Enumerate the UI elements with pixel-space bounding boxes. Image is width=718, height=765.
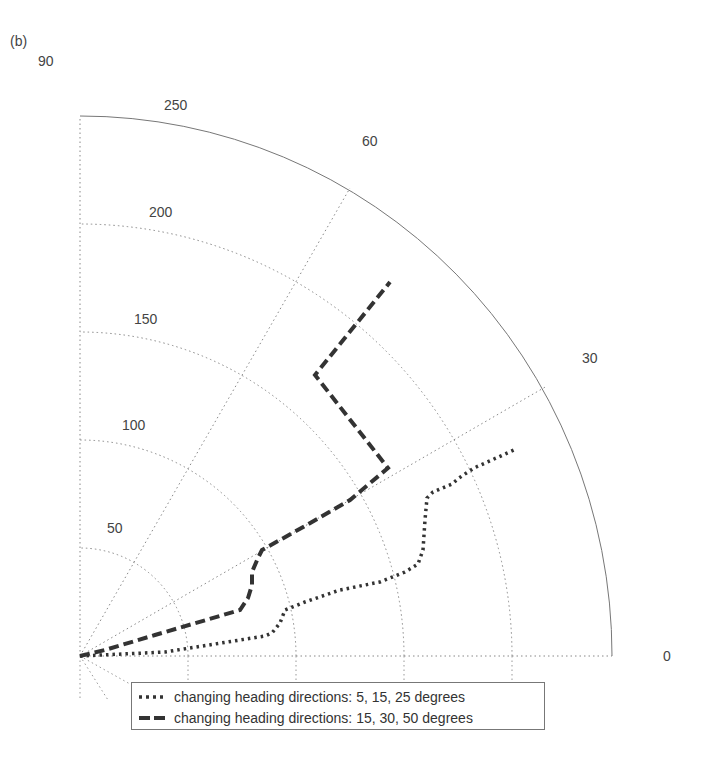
ring-250-outer: [80, 116, 612, 656]
ring-200: [80, 224, 512, 656]
polar-chart: (b) 90 60 30 0 50 100 150 200 250: [0, 0, 718, 765]
panel-label: (b): [10, 33, 27, 49]
dashed-line-swatch-icon: [138, 713, 168, 723]
legend: changing heading directions: 5, 15, 25 d…: [131, 682, 545, 730]
spoke-300-stub: [80, 656, 108, 700]
radius-label-150: 150: [134, 311, 158, 327]
radius-label-200: 200: [149, 204, 173, 220]
legend-label-dotted: changing heading directions: 5, 15, 25 d…: [174, 689, 465, 705]
spoke-330-stub: [80, 656, 130, 684]
angle-label-30: 30: [582, 350, 598, 366]
ring-50: [80, 548, 188, 656]
dotted-line-swatch-icon: [138, 692, 168, 702]
radius-label-50: 50: [107, 520, 123, 536]
series-dashed-15-30-50: [80, 282, 390, 656]
angle-label-90: 90: [38, 53, 54, 69]
series-dotted-5-15-25: [80, 450, 514, 656]
radius-label-250: 250: [164, 97, 188, 113]
radius-label-100: 100: [122, 417, 146, 433]
legend-item-dashed: changing heading directions: 15, 30, 50 …: [138, 707, 538, 728]
legend-label-dashed: changing heading directions: 15, 30, 50 …: [174, 710, 473, 726]
spoke-60: [80, 188, 350, 656]
angle-label-0: 0: [663, 648, 671, 664]
angle-label-60: 60: [362, 133, 378, 149]
legend-item-dotted: changing heading directions: 5, 15, 25 d…: [138, 686, 538, 707]
